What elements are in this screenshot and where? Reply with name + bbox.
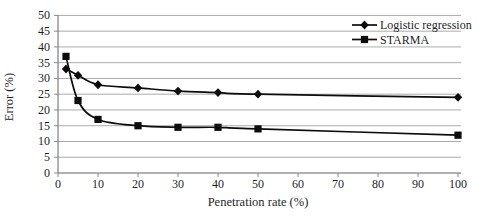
legend-item-logistic-regression: Logistic regression <box>352 18 472 32</box>
square-marker <box>254 125 261 132</box>
y-tick-label: 35 <box>38 56 50 70</box>
x-tick-label: 0 <box>55 177 61 191</box>
x-tick-label: 60 <box>292 177 304 191</box>
y-tick-label: 15 <box>38 119 50 133</box>
x-tick-label: 20 <box>132 177 144 191</box>
y-axis-title: Error (%) <box>2 73 16 121</box>
square-marker <box>62 53 69 60</box>
diamond-marker <box>254 90 262 99</box>
x-tick-label: 10 <box>92 177 104 191</box>
y-tick-label: 45 <box>38 24 50 38</box>
y-tick-label: 40 <box>38 40 50 54</box>
diamond-marker <box>134 83 142 92</box>
y-tick-label: 5 <box>44 150 50 164</box>
diamond-marker <box>214 88 222 97</box>
legend-label-logistic-regression: Logistic regression <box>380 18 472 32</box>
y-tick-label: 25 <box>38 87 50 101</box>
diamond-marker <box>94 80 102 89</box>
x-axis-title: Penetration rate (%) <box>208 195 309 209</box>
y-tick-label: 30 <box>38 71 50 85</box>
square-marker <box>174 124 181 131</box>
legend-label-starma: STARMA <box>380 33 429 47</box>
x-tick-label: 90 <box>412 177 424 191</box>
legend: Logistic regressionSTARMA <box>352 18 472 47</box>
series-line-logistic-regression <box>66 69 458 97</box>
x-tick-label: 50 <box>252 177 264 191</box>
square-marker <box>94 116 101 123</box>
x-tick-label: 70 <box>332 177 344 191</box>
legend-diamond-marker <box>360 21 368 30</box>
legend-item-starma: STARMA <box>352 33 429 47</box>
y-tick-label: 0 <box>44 166 50 180</box>
chart-figure: 0102030405060708090100051015202530354045… <box>0 0 490 222</box>
x-tick-label: 80 <box>372 177 384 191</box>
y-tick-label: 50 <box>38 8 50 22</box>
square-marker <box>74 97 81 104</box>
series-logistic-regression <box>62 65 462 102</box>
y-tick-label: 20 <box>38 103 50 117</box>
x-tick-label: 100 <box>449 177 467 191</box>
legend-square-marker <box>361 36 368 43</box>
y-tick-label: 10 <box>38 134 50 148</box>
x-tick-label: 30 <box>172 177 184 191</box>
x-tick-label: 40 <box>212 177 224 191</box>
square-marker <box>214 124 221 131</box>
square-marker <box>134 122 141 129</box>
chart-canvas: 0102030405060708090100051015202530354045… <box>0 0 490 222</box>
square-marker <box>454 132 461 139</box>
